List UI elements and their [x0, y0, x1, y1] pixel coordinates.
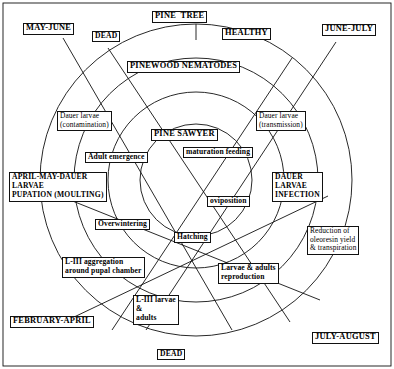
node-liii-larvae-adults: L-III larvae & adults	[133, 295, 179, 325]
node-healthy: HEALTHY	[222, 28, 271, 40]
node-liii-aggregation: L-III aggregation around pupal chamber	[62, 257, 145, 278]
node-dauer-larvae-transmission: Dauer larvae (transmission)	[256, 111, 306, 131]
node-reduction-oleoresin: Reduction of oleoresin yield & transpira…	[307, 226, 359, 255]
pine-wilt-cycle-diagram: PINE TREE HEALTHY DEAD MAY-JUNE JUNE-JUL…	[0, 0, 394, 369]
line-healthy-diagonal	[112, 58, 292, 330]
node-adult-emergence: Adult emergence	[85, 152, 148, 163]
node-maturation-feeding: maturation feeding	[183, 147, 253, 158]
node-dauer-larvae-contamination: Dauer larvae (contamination)	[57, 111, 112, 131]
node-oviposition: oviposition	[207, 196, 250, 207]
season-may-june: MAY-JUNE	[23, 23, 74, 35]
node-pine-tree: PINE TREE	[152, 11, 207, 23]
node-dead-bottom: DEAD	[157, 349, 185, 360]
node-pinewood-nematodes: PINEWOOD NEMATODES	[127, 61, 240, 73]
node-dead-top: DEAD	[92, 31, 120, 42]
node-hatching: Hatching	[174, 232, 211, 243]
node-overwintering: Overwintering	[95, 219, 150, 230]
season-june-july: JUNE-JULY	[322, 24, 376, 36]
season-february-april: FEBRUARY-APRIL	[10, 316, 94, 328]
node-larvae-adults-reproduction: Larvae & adults reproduction	[218, 263, 279, 284]
season-april-may-dauer: APRIL-MAY-DAUER LARVAE PUPATION (MOULTIN…	[9, 172, 107, 202]
node-pine-sawyer: PINE SAWYER	[151, 129, 218, 141]
season-july-august: JULY-AUGUST	[312, 332, 379, 344]
season-dauer-larvae-infection: DAUER LARVAE INFECTION	[272, 172, 323, 202]
